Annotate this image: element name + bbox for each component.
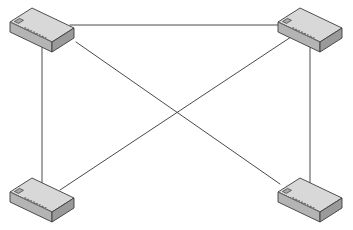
links-layer [42,25,310,196]
switch-bottom-left[interactable] [10,178,74,222]
switch-top-right[interactable] [278,8,342,52]
topology-svg [0,0,353,230]
switch-top-left[interactable] [10,8,74,52]
switch-bottom-right[interactable] [278,178,342,222]
link-diagonal-tl-br [76,42,280,184]
link-diagonal-bl-tr [60,33,297,190]
network-topology-diagram [0,0,353,230]
